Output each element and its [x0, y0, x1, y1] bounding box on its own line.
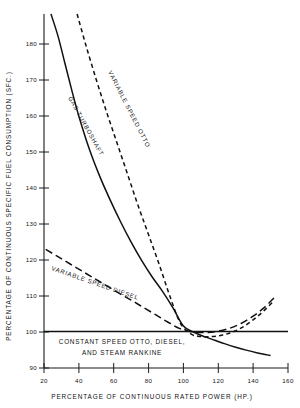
y-tick-label-130: 130 — [26, 220, 38, 227]
x-tick-label-80: 80 — [145, 377, 153, 384]
y-tick-label-180: 180 — [26, 40, 38, 47]
y-tick-label-120: 120 — [26, 256, 38, 263]
series-label-gas-turboshaft: GAS TURBOSHAFT — [67, 95, 106, 157]
series-label-constant-speed-line2: AND STEAM RANKINE — [82, 349, 162, 356]
series-label-constant-speed-line1: CONSTANT SPEED OTTO, DIESEL, — [59, 338, 185, 345]
series-line-variable-speed-diesel — [46, 249, 274, 332]
series-label-variable-speed-diesel: VARIABLE SPEED DIESEL — [51, 264, 140, 301]
y-axis-title: PERCENTAGE OF CONTINUOUS SPECIFIC FUEL C… — [5, 71, 13, 341]
y-tick-label-100: 100 — [26, 328, 38, 335]
x-tick-label-140: 140 — [247, 377, 259, 384]
y-tick-label-170: 170 — [26, 76, 38, 83]
x-tick-label-20: 20 — [40, 377, 48, 384]
chart-svg: 90 100 110 120 130 140 150 160 170 180 2… — [0, 0, 300, 408]
y-tick-label-150: 150 — [26, 148, 38, 155]
chart-figure: 90 100 110 120 130 140 150 160 170 180 2… — [0, 0, 300, 408]
series-label-variable-speed-otto: VARIABLE SPEED OTTO — [107, 69, 152, 148]
y-tick-label-90: 90 — [29, 364, 37, 371]
y-tick-label-140: 140 — [26, 184, 38, 191]
x-axis-title: PERCENTAGE OF CONTINUOUS RATED POWER (HP… — [51, 393, 252, 401]
series-line-gas-turboshaft — [51, 14, 271, 356]
y-tick-label-110: 110 — [26, 292, 37, 299]
x-tick-label-120: 120 — [213, 377, 225, 384]
y-tick-label-160: 160 — [26, 112, 38, 119]
x-tick-label-40: 40 — [75, 377, 83, 384]
x-tick-label-60: 60 — [110, 377, 118, 384]
x-tick-label-100: 100 — [178, 377, 190, 384]
x-tick-label-160: 160 — [282, 377, 294, 384]
